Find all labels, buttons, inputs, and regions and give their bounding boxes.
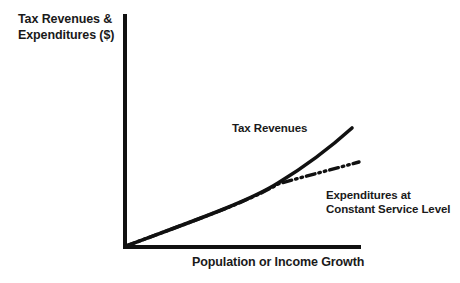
y-axis-label-line-1: Tax Revenues & xyxy=(18,12,112,26)
y-axis-label-line-2: Expenditures ($) xyxy=(18,28,114,42)
series-annotation-tax-revenues: Tax Revenues xyxy=(232,121,307,135)
series-annotation-expenditures-line-1: Expenditures at xyxy=(326,189,411,201)
series-annotation-expenditures-line-2: Constant Service Level xyxy=(326,203,450,215)
series-line-expenditures xyxy=(126,162,359,246)
series-annotation-expenditures: Expenditures atConstant Service Level xyxy=(326,188,450,217)
chart-figure: Tax Revenues &Expenditures ($) Populatio… xyxy=(0,0,460,283)
x-axis-label: Population or Income Growth xyxy=(192,255,364,271)
y-axis-label: Tax Revenues &Expenditures ($) xyxy=(18,12,114,43)
series-line-tax-revenues xyxy=(126,128,352,246)
